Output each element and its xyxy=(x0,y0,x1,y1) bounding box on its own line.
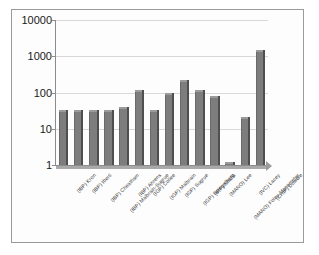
y-tick-label-1000: 1000 xyxy=(28,50,52,62)
bar-side-face xyxy=(97,110,99,165)
y-axis-tick-labels: 10000 1000 100 10 1 xyxy=(0,20,52,165)
gridline-100 xyxy=(56,93,268,94)
x-tick-label: (IBP) Malbrain-Sugrue xyxy=(128,172,169,213)
x-tick-label: (IBP) Cheatham xyxy=(109,172,140,203)
bar xyxy=(150,110,159,165)
x-tick-label: (IGP) Spiegelberg xyxy=(201,172,235,206)
bar-side-face xyxy=(187,80,189,165)
bar xyxy=(256,50,265,165)
bar-side-face xyxy=(157,110,159,165)
bar xyxy=(195,90,204,165)
x-tick-label: (IBP) Kron xyxy=(75,172,97,194)
bar-side-face xyxy=(218,96,220,165)
x-tick-label: (IGP) Collee xyxy=(152,172,177,197)
x-tick-label: (MANO) Foley-Manometer xyxy=(252,172,300,220)
bar-side-face xyxy=(233,162,235,165)
bar-side-face xyxy=(127,107,129,165)
x-tick-label: (IGP) Malbrain xyxy=(169,172,198,201)
axis-floor-3d xyxy=(56,166,269,169)
x-tick-label: (IGP) Sugrue xyxy=(183,172,209,198)
bar xyxy=(59,110,68,165)
bar xyxy=(241,117,250,165)
gridline-10000 xyxy=(56,20,268,21)
gridline-10 xyxy=(56,129,268,130)
bar xyxy=(104,110,113,165)
x-tick-label: (CHIP) Dowdle xyxy=(275,172,304,201)
bar xyxy=(210,96,219,165)
bar xyxy=(135,90,144,165)
bar-side-face xyxy=(263,50,265,165)
x-tick-label: (MANO) Lee xyxy=(228,172,253,197)
bar xyxy=(74,110,83,165)
bar-side-face xyxy=(172,93,174,165)
plot-area xyxy=(56,20,268,165)
bar-chart: 10000 1000 100 10 1 (IBP) Kron(IBP) Iber… xyxy=(0,0,319,255)
bar xyxy=(180,80,189,165)
x-tick-label: (IBP) Iberti xyxy=(90,172,112,194)
bar-side-face xyxy=(203,90,205,165)
bar-side-face xyxy=(112,110,114,165)
bar xyxy=(119,107,128,165)
figure: 10000 1000 100 10 1 (IBP) Kron(IBP) Iber… xyxy=(0,0,319,255)
y-tick-label-100: 100 xyxy=(34,87,52,99)
y-tick-label-10000: 10000 xyxy=(21,14,52,26)
bar xyxy=(225,162,234,165)
gridline-1000 xyxy=(56,56,268,57)
bar-side-face xyxy=(248,117,250,165)
y-tick-label-10: 10 xyxy=(40,123,52,135)
bar-side-face xyxy=(81,110,83,165)
x-tick-label: (IRP) Shafik xyxy=(212,172,236,196)
bar-side-face xyxy=(66,110,68,165)
bar xyxy=(165,93,174,165)
x-tick-label: (IVC) Lacey xyxy=(257,172,281,196)
x-tick-label: (IBP) Ahrens xyxy=(137,172,162,197)
bar-side-face xyxy=(142,90,144,165)
bar xyxy=(89,110,98,165)
